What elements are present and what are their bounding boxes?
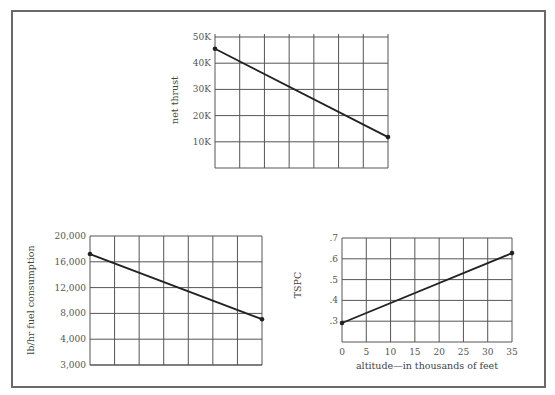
data-line [215, 49, 388, 137]
data-point [213, 46, 218, 51]
x-tick-label: 15 [409, 347, 421, 357]
data-point [386, 135, 391, 140]
y-tick-label: 20,000 [55, 231, 87, 241]
data-point [340, 321, 345, 326]
y-tick-label: 16,000 [55, 257, 87, 267]
x-tick-label: 35 [506, 347, 518, 357]
data-point [260, 317, 265, 322]
charts-canvas: 50K40K30K20K10K 20,00016,00012,0008,0004… [0, 0, 555, 395]
data-line [90, 254, 262, 319]
net-thrust-chart: 50K40K30K20K10K [193, 32, 390, 168]
y-tick-label: 40K [193, 58, 211, 68]
x-tick-label: 30 [482, 347, 494, 357]
data-point [88, 252, 93, 257]
y-tick-label: 20K [193, 111, 211, 121]
tspc-x-axis-label: altitude—in thousands of feet [356, 360, 498, 371]
y-tick-label: 4,000 [60, 334, 86, 344]
thrust-y-axis-label: net thrust [169, 76, 180, 124]
y-tick-label: 10K [193, 137, 211, 147]
fuel-consumption-chart: 20,00016,00012,0008,0004,0003,000 [55, 231, 265, 370]
x-tick-label: 5 [363, 347, 369, 357]
y-tick-label: 8,000 [60, 308, 86, 318]
x-tick-label: 20 [433, 347, 445, 357]
tspc-y-axis-label: TSPC [292, 272, 303, 299]
tspc-chart: .7.6.5.4.305101520253035 [329, 233, 518, 357]
fuel-y-axis-label: lb/hr fuel consumption [25, 245, 36, 354]
y-tick-label: .3 [329, 316, 338, 326]
y-tick-label: 3,000 [60, 360, 86, 370]
y-tick-label: .6 [329, 254, 338, 264]
x-tick-label: 25 [458, 347, 470, 357]
y-tick-label: 12,000 [55, 283, 87, 293]
y-tick-label: .7 [329, 233, 338, 243]
y-tick-label: 50K [193, 32, 211, 42]
y-tick-label: 30K [193, 84, 211, 94]
y-tick-label: .4 [329, 295, 338, 305]
x-tick-label: 10 [385, 347, 397, 357]
x-tick-label: 0 [339, 347, 345, 357]
data-line [342, 253, 512, 323]
data-point [510, 251, 515, 256]
y-tick-label: .5 [329, 275, 338, 285]
